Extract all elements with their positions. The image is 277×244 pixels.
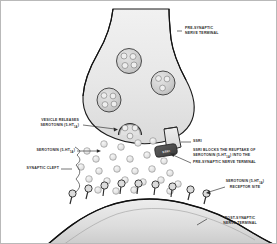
receptor-site-line-2: RECEPTOR SITE xyxy=(215,185,275,190)
synaptic-vesicle xyxy=(151,71,175,95)
vesicle-releases-text-post: ) xyxy=(78,123,79,127)
synapse-diagram-figure: SSRI xyxy=(0,0,277,244)
label-serotonin: SEROTONIN (5-HT1A) xyxy=(5,148,75,154)
ssri-caption-text-post: ) INTO THE xyxy=(230,153,250,157)
receptor-site-text-pre: SEROTONIN (5-HT xyxy=(226,179,259,183)
post-synaptic-line-2: NERVE TERMINAL xyxy=(209,221,271,226)
label-receptor-site: SEROTONIN (5-HT1A) RECEPTOR SITE xyxy=(215,179,275,191)
ssri-caption-line-3: PRE-SYNAPTIC NERVE TERMINAL xyxy=(193,160,256,165)
serotonin-text-pre: SEROTONIN (5-HT xyxy=(37,148,70,152)
receptor-site xyxy=(85,185,92,199)
receptor-site xyxy=(101,182,108,196)
label-vesicle-releases: VESICLE RELEASES SEROTONIN (5-HT1A) xyxy=(9,118,79,130)
leader-ssri-caption xyxy=(173,155,191,163)
synaptic-vesicle xyxy=(97,88,121,112)
label-synaptic-cleft: SYNAPTIC CLEFT xyxy=(5,166,59,171)
pre-synaptic-terminal-shape xyxy=(83,9,194,144)
ssri-caption-text-pre: SEROTONIN (5-HT xyxy=(193,153,226,157)
label-post-synaptic-terminal: POST-SYNAPTIC NERVE TERMINAL xyxy=(209,216,271,226)
label-ssri-title: SSRI xyxy=(193,139,202,144)
label-ssri-caption: SSRI BLOCKS THE REUPTAKE OF SEROTONIN (5… xyxy=(193,148,256,165)
receptor-site xyxy=(152,181,159,195)
vesicle-releases-text-pre: SEROTONIN (5-HT xyxy=(41,123,74,127)
ssri-caption-line-2: SEROTONIN (5-HT1A) INTO THE xyxy=(193,153,256,159)
serotonin-text-post: ) xyxy=(74,148,75,152)
receptor-site-text-post: ) xyxy=(263,179,264,183)
label-pre-synaptic-terminal: PRE-SYNAPTIC NERVE TERMINAL xyxy=(185,26,219,36)
leader-synaptic-cleft-brace xyxy=(75,147,80,193)
pre-synaptic-line-2: NERVE TERMINAL xyxy=(185,31,219,36)
receptor-site xyxy=(69,190,76,204)
receptor-site xyxy=(187,186,194,200)
vesicle-releases-line-2: SEROTONIN (5-HT1A) xyxy=(9,123,79,129)
synaptic-vesicle xyxy=(117,49,142,74)
